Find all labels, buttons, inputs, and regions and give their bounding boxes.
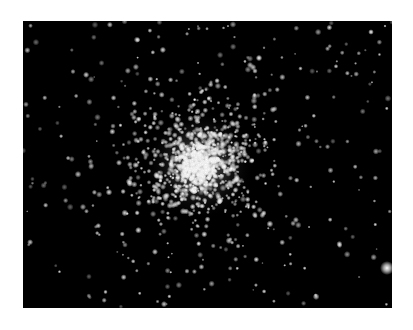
star-cluster-photo — [23, 21, 392, 308]
starfield-canvas — [23, 21, 392, 308]
